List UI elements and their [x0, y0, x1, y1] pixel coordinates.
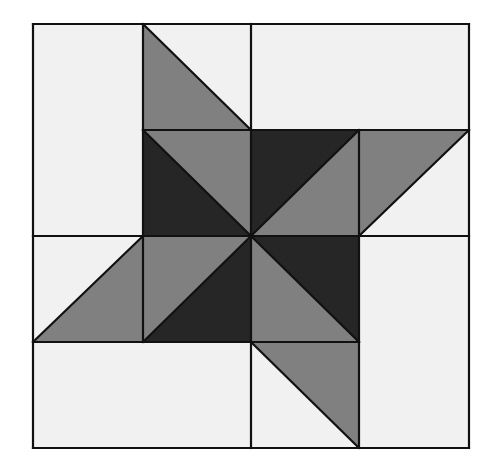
light-rect-left-top: [33, 24, 143, 236]
light-rect-bottom-left: [33, 342, 251, 448]
light-rect-right-bottom: [359, 236, 469, 448]
light-rect-top-right: [251, 24, 469, 130]
quilt-block-diagram: [0, 0, 495, 469]
